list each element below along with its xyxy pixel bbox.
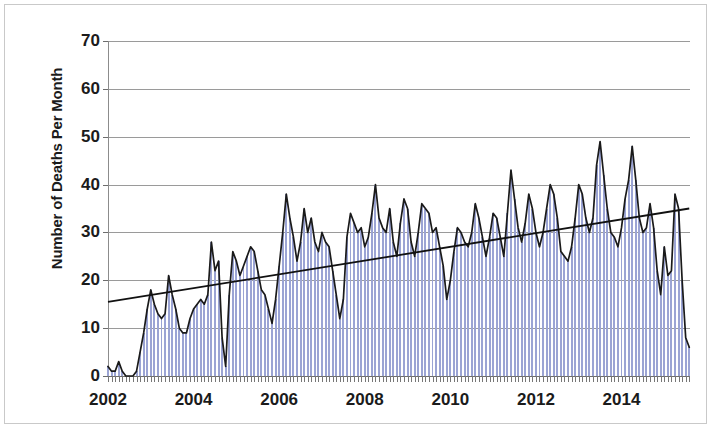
x-tick-mark — [618, 376, 619, 382]
x-tick-mark — [144, 376, 145, 382]
x-tick-mark — [336, 376, 337, 382]
x-tick-mark — [614, 376, 615, 382]
x-tick-mark — [318, 376, 319, 382]
x-tick-mark — [582, 376, 583, 382]
x-tick-mark — [557, 376, 558, 382]
x-tick-mark — [536, 376, 537, 382]
x-tick-mark — [372, 376, 373, 382]
x-tick-label-2008: 2008 — [346, 390, 384, 410]
y-tick-label-10: 10 — [52, 318, 100, 338]
x-tick-mark — [161, 376, 162, 382]
x-tick-mark — [211, 376, 212, 382]
x-tick-mark — [450, 376, 451, 382]
x-tick-mark — [186, 376, 187, 382]
x-tick-mark — [461, 376, 462, 382]
x-tick-mark — [457, 376, 458, 382]
x-tick-mark — [240, 376, 241, 382]
x-tick-mark — [607, 376, 608, 382]
x-tick-mark — [572, 376, 573, 382]
x-tick-mark — [654, 376, 655, 382]
x-tick-mark — [482, 376, 483, 382]
x-tick-mark — [129, 376, 130, 382]
x-tick-label-2014: 2014 — [603, 390, 641, 410]
x-tick-mark — [169, 376, 170, 382]
x-tick-mark — [661, 376, 662, 382]
x-tick-mark — [504, 376, 505, 382]
x-tick-mark — [411, 376, 412, 382]
x-tick-mark — [261, 376, 262, 382]
x-tick-mark — [600, 376, 601, 382]
y-tick-label-20: 20 — [52, 270, 100, 290]
x-tick-mark — [176, 376, 177, 382]
x-tick-mark — [636, 376, 637, 382]
x-tick-mark — [593, 376, 594, 382]
x-tick-mark — [479, 376, 480, 382]
x-tick-mark — [229, 376, 230, 382]
x-tick-mark — [397, 376, 398, 382]
x-tick-mark — [201, 376, 202, 382]
y-tick-label-70: 70 — [52, 31, 100, 51]
x-tick-mark — [329, 376, 330, 382]
x-tick-mark — [575, 376, 576, 382]
x-tick-mark — [119, 376, 120, 382]
x-tick-mark — [646, 376, 647, 382]
x-tick-mark — [112, 376, 113, 382]
y-axis-tick-labels: 010203040506070 — [52, 41, 100, 376]
x-tick-mark — [347, 376, 348, 382]
x-tick-label-2012: 2012 — [517, 390, 555, 410]
x-tick-mark — [154, 376, 155, 382]
x-tick-mark — [564, 376, 565, 382]
y-tick-label-60: 60 — [52, 79, 100, 99]
x-tick-mark — [354, 376, 355, 382]
x-tick-mark — [415, 376, 416, 382]
y-tick-label-50: 50 — [52, 127, 100, 147]
x-tick-mark — [525, 376, 526, 382]
x-tick-mark — [315, 376, 316, 382]
x-tick-mark — [418, 376, 419, 382]
x-axis-tick-labels: 2002200420062008201020122014 — [108, 390, 690, 420]
plot-area — [108, 41, 690, 376]
x-tick-mark — [333, 376, 334, 382]
x-tick-mark — [465, 376, 466, 382]
x-tick-mark — [664, 376, 665, 382]
x-tick-mark — [379, 376, 380, 382]
x-tick-mark — [233, 376, 234, 382]
x-tick-mark — [165, 376, 166, 382]
x-tick-mark — [632, 376, 633, 382]
x-tick-mark — [550, 376, 551, 382]
x-tick-mark — [689, 376, 690, 382]
x-tick-mark — [400, 376, 401, 382]
x-tick-mark — [251, 376, 252, 382]
x-tick-mark — [383, 376, 384, 382]
x-tick-mark — [365, 376, 366, 382]
x-tick-mark — [490, 376, 491, 382]
x-tick-mark — [115, 376, 116, 382]
x-tick-mark — [657, 376, 658, 382]
x-tick-mark — [425, 376, 426, 382]
x-axis-tick-marks — [108, 376, 690, 383]
x-tick-mark — [326, 376, 327, 382]
x-tick-label-2010: 2010 — [431, 390, 469, 410]
x-tick-mark — [511, 376, 512, 382]
x-tick-mark — [272, 376, 273, 382]
x-tick-mark — [639, 376, 640, 382]
x-tick-mark — [258, 376, 259, 382]
x-tick-mark — [304, 376, 305, 382]
x-tick-mark — [147, 376, 148, 382]
x-tick-mark — [215, 376, 216, 382]
x-tick-mark — [222, 376, 223, 382]
line-overlay — [108, 41, 690, 376]
x-tick-mark — [183, 376, 184, 382]
x-tick-mark — [122, 376, 123, 382]
x-tick-mark — [322, 376, 323, 382]
x-tick-mark — [518, 376, 519, 382]
x-tick-mark — [433, 376, 434, 382]
x-tick-mark — [279, 376, 280, 382]
x-tick-mark — [671, 376, 672, 382]
x-tick-mark — [368, 376, 369, 382]
x-tick-mark — [219, 376, 220, 382]
x-tick-mark — [244, 376, 245, 382]
x-tick-mark — [554, 376, 555, 382]
x-tick-mark — [208, 376, 209, 382]
x-tick-mark — [497, 376, 498, 382]
